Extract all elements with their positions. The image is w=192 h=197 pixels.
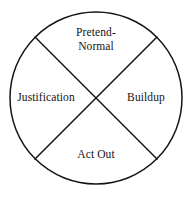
cycle-diagram: Pretend- Normal Justification Buildup Ac… [0, 0, 192, 197]
quadrant-label-right: Buildup [110, 91, 182, 105]
quadrant-label-left: Justification [6, 91, 86, 105]
quadrant-label-top: Pretend- Normal [46, 26, 146, 53]
quadrant-label-bottom: Act Out [56, 148, 136, 162]
